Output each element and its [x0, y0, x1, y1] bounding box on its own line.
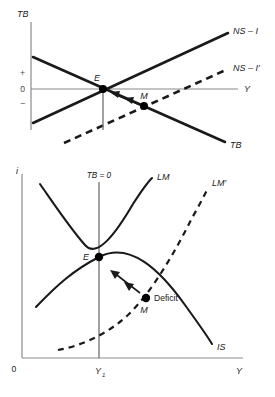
- bottom-x-tick-y1-sub: 1: [102, 372, 105, 378]
- top-x-axis-label: Y: [244, 84, 251, 94]
- bottom-panel-svg: i Y 0 TB = 0 Y 1 E: [0, 160, 275, 397]
- top-y-axis-label: TB: [17, 9, 29, 19]
- top-point-e-label: E: [94, 73, 101, 83]
- top-tick-minus: −: [20, 98, 25, 108]
- bottom-point-e-marker: [95, 253, 103, 261]
- bottom-panel-chart: i Y 0 TB = 0 Y 1 E: [0, 160, 275, 397]
- top-label-ns-minus-i: NS – I: [233, 26, 259, 36]
- top-point-e-marker: [99, 85, 107, 93]
- bottom-point-m-marker: [142, 294, 150, 302]
- economics-diagram-figure: TB Y + 0 − E M NS: [0, 0, 275, 397]
- top-adjustment-arrow-head-2: [124, 97, 134, 104]
- top-panel-svg: TB Y + 0 − E M NS: [0, 0, 275, 160]
- top-point-m-label: M: [140, 91, 148, 101]
- bottom-adjustment-arrow-head-1: [110, 270, 120, 279]
- bottom-deficit-label: Deficit: [154, 293, 178, 303]
- top-adjustment-arrow-head-1: [110, 91, 120, 98]
- bottom-label-lm: LM: [157, 172, 170, 182]
- top-tick-zero: 0: [20, 84, 25, 94]
- bottom-label-lm-prime: LM′: [212, 178, 227, 188]
- bottom-y-axis-label: i: [16, 166, 19, 176]
- bottom-x-axis-label: Y: [236, 366, 243, 376]
- bottom-origin-label: 0: [12, 364, 17, 374]
- bottom-x-tick-y1-base: Y: [95, 366, 102, 376]
- top-panel-chart: TB Y + 0 − E M NS: [0, 0, 275, 160]
- top-curve-ns-minus-i: [33, 33, 228, 123]
- top-label-tb: TB: [230, 140, 242, 150]
- top-point-m-marker: [140, 102, 148, 110]
- bottom-point-e-label: E: [83, 252, 90, 262]
- top-label-ns-minus-i-prime: NS – I′: [233, 63, 260, 73]
- bottom-point-m-label: M: [140, 305, 148, 315]
- bottom-label-is: IS: [217, 342, 226, 352]
- top-tick-plus: +: [20, 68, 25, 78]
- bottom-curve-lm: [40, 178, 152, 249]
- bottom-curve-is: [36, 252, 212, 344]
- bottom-tb-zero-label: TB = 0: [87, 171, 112, 180]
